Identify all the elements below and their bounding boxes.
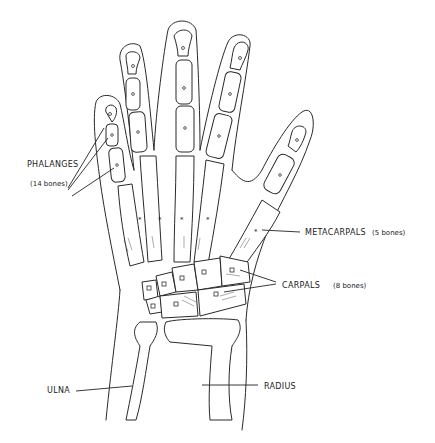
svg-text:*: * — [180, 216, 184, 224]
svg-text:*: * — [254, 228, 258, 236]
hand-bones-diagram: * * * * * — [0, 0, 435, 443]
label-metacarpals-count: (5 bones) — [372, 229, 406, 237]
label-metacarpals: METACARPALS — [305, 228, 366, 237]
phalanges-thumb — [262, 126, 306, 196]
label-phalanges-count: (14 bones) — [30, 180, 68, 188]
metacarpals: * * * * * — [118, 156, 280, 272]
phalanges-ring-finger — [126, 52, 147, 153]
svg-text:*: * — [206, 216, 210, 224]
label-carpals: CARPALS — [282, 281, 320, 290]
forearm-bones — [126, 319, 240, 420]
carpals — [142, 256, 250, 318]
label-ulna: ULNA — [47, 386, 70, 395]
svg-text:*: * — [158, 216, 162, 224]
label-radius: RADIUS — [264, 382, 296, 391]
phalanges-middle-finger — [174, 30, 194, 152]
svg-text:*: * — [138, 216, 142, 224]
label-phalanges: PHALANGES — [27, 160, 78, 169]
label-carpals-count: (8 bones) — [333, 282, 367, 290]
